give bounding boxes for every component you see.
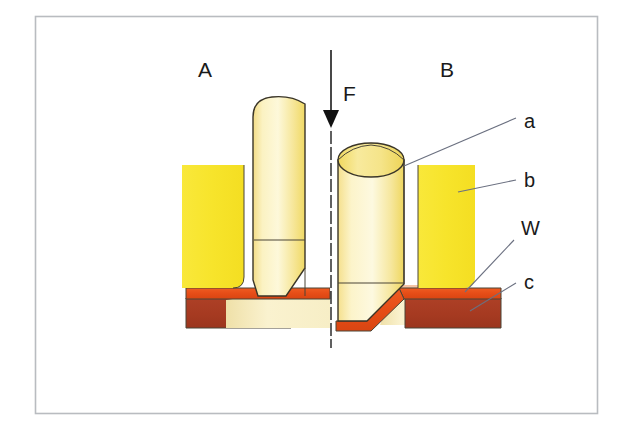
leader-a [404,118,516,166]
solder-foot-a [226,296,330,328]
solder-ball-b-cap [338,143,404,177]
solder-ball-a [253,97,305,296]
assembly-b [336,143,501,331]
force-arrow-head [323,110,339,128]
substrate-b [405,298,501,328]
figure-frame [36,17,598,414]
pad-b-right [418,165,475,288]
figure-root: F [0,0,634,439]
callout-label-a: a [524,110,536,132]
stage-label-b: B [440,58,454,81]
solder-reflow-diagram: F [0,0,634,439]
force-label: F [343,82,356,105]
stage-label-a: A [198,58,212,81]
callout-label-w: W [521,217,540,239]
callout-label-c: c [524,271,534,293]
assembly-a [182,97,330,328]
force-indicator: F [323,50,356,128]
pad-a-left [182,165,244,288]
callout-label-b: b [524,169,535,191]
